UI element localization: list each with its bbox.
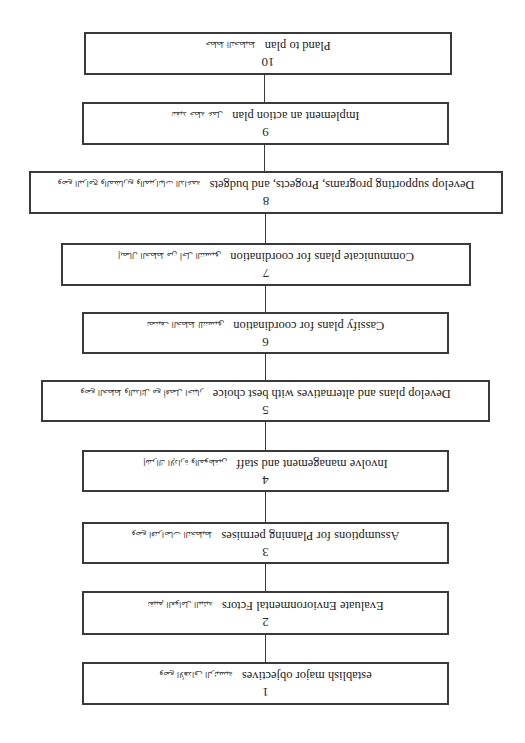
step-number: 1 xyxy=(262,685,269,701)
step-number: 2 xyxy=(262,614,269,630)
step-arabic-label: إشراك الإدارة والموظفين xyxy=(143,454,227,470)
step-arabic-label: إيصال الخطط من أجل التنسيق xyxy=(118,248,221,264)
step-label: Develop plans and alternatives with best… xyxy=(213,387,451,401)
step-arabic-label: وضع البرامج والمشاريع والميزانيات الداعم… xyxy=(58,176,201,192)
connector-9-8 xyxy=(264,145,265,171)
step-label: Communicate plans for coordination xyxy=(230,251,414,265)
step-number: 8 xyxy=(263,194,270,210)
step-label: Cassify plans for coordination xyxy=(233,319,384,333)
step-label: Involve management and staff xyxy=(236,457,387,471)
step-label: Develop supporting programs, Progects, a… xyxy=(210,179,475,193)
step-number: 3 xyxy=(262,544,269,560)
step-box-8: 8 Develop supporting programs, Progects,… xyxy=(29,171,503,214)
connector-10-9 xyxy=(264,74,265,102)
step-box-7: 7 Communicate plans for coordination إيص… xyxy=(61,243,471,286)
connector-2-1 xyxy=(265,635,266,662)
step-number: 10 xyxy=(262,55,275,71)
connector-8-7 xyxy=(265,214,266,243)
connector-7-6 xyxy=(265,286,266,312)
planning-process-flowchart: 10 Pland to plan خطط التخطيط 9 Implement… xyxy=(0,0,525,743)
step-arabic-label: وضع الخطط والبدائل مع أفضل اختيار xyxy=(80,384,203,400)
step-number: 6 xyxy=(262,334,269,350)
connector-3-2 xyxy=(265,564,266,591)
step-arabic-label: وضع افتراضات التخطيط xyxy=(132,526,213,542)
connector-5-4 xyxy=(265,422,266,450)
step-label: Pland to plan xyxy=(265,40,331,54)
step-box-3: 3 Assumptions for Planning permises وضع … xyxy=(82,522,449,564)
step-label: establish major objectives xyxy=(242,670,372,684)
step-box-1: 1 establish major objectives وضع الأهداف… xyxy=(82,662,449,705)
step-label: Implement an action plan xyxy=(232,110,359,124)
step-number: 7 xyxy=(263,266,270,282)
step-number: 5 xyxy=(262,402,269,418)
step-arabic-label: تنفيذ خطة عمل xyxy=(171,107,223,123)
step-number: 4 xyxy=(262,472,269,488)
step-box-2: 2 Evaluate Envioronmental Fctors تقييم ا… xyxy=(82,591,449,635)
connector-6-5 xyxy=(265,354,266,380)
step-number: 9 xyxy=(262,125,269,141)
step-box-10: 10 Pland to plan خطط التخطيط xyxy=(84,32,452,75)
step-arabic-label: وضع الأهداف الرئيسية xyxy=(159,667,232,683)
connector-4-3 xyxy=(265,492,266,522)
step-arabic-label: خطط التخطيط xyxy=(205,37,255,53)
step-arabic-label: تصنيف الخطط للتنسيق xyxy=(147,316,224,332)
step-label: Assumptions for Planning permises xyxy=(221,529,399,543)
step-arabic-label: تقييم العوامل البيئية xyxy=(147,596,212,612)
step-box-5: 5 Develop plans and alternatives with be… xyxy=(41,380,490,422)
step-label: Evaluate Envioronmental Fctors xyxy=(222,599,384,613)
step-box-6: 6 Cassify plans for coordination تصنيف ا… xyxy=(82,312,449,354)
step-box-4: 4 Involve management and staff إشراك الإ… xyxy=(82,450,449,492)
step-box-9: 9 Implement an action plan تنفيذ خطة عمل xyxy=(82,102,449,145)
